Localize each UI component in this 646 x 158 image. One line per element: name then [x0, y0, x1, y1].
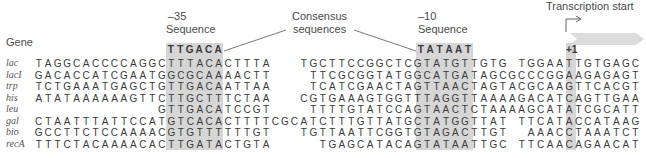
gene-name: leu [6, 103, 18, 114]
direction-bar-icon [570, 33, 644, 45]
gene-name: trp [6, 80, 18, 91]
consensus-pointer-right [354, 30, 416, 51]
gene-name: recA [6, 138, 25, 149]
gene-name: gal [6, 115, 19, 126]
transcription-start-arrow-icon [566, 16, 581, 32]
gene-name: bio [6, 126, 19, 137]
gene-name: lacI [6, 69, 22, 80]
consensus-pointer-left [224, 30, 286, 51]
plus1-label: +1 [566, 44, 577, 55]
gene-name: his [6, 92, 18, 103]
gene-name: lac [6, 57, 18, 68]
